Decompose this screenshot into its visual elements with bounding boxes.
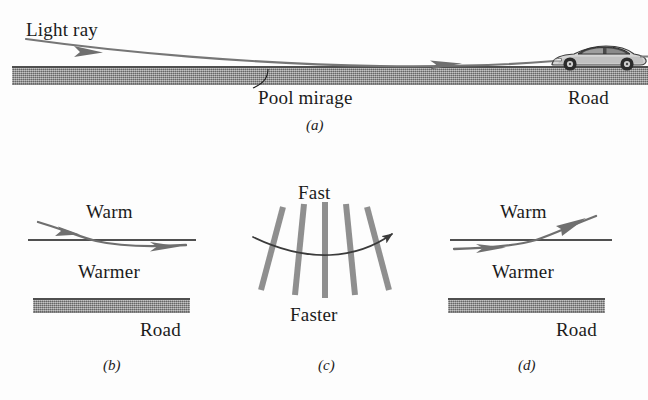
warm-label-panel-d: Warm [500, 202, 547, 221]
panel-d-vector-layer [0, 0, 648, 400]
warmer-label-panel-d: Warmer [492, 262, 554, 281]
road-label-panel-d: Road [556, 320, 597, 339]
mirage-figure: Light ray Pool mirage Road (a) Warm Warm… [0, 0, 648, 400]
road-band-panel-d [448, 298, 605, 313]
caption-panel-d: (d) [518, 358, 536, 373]
